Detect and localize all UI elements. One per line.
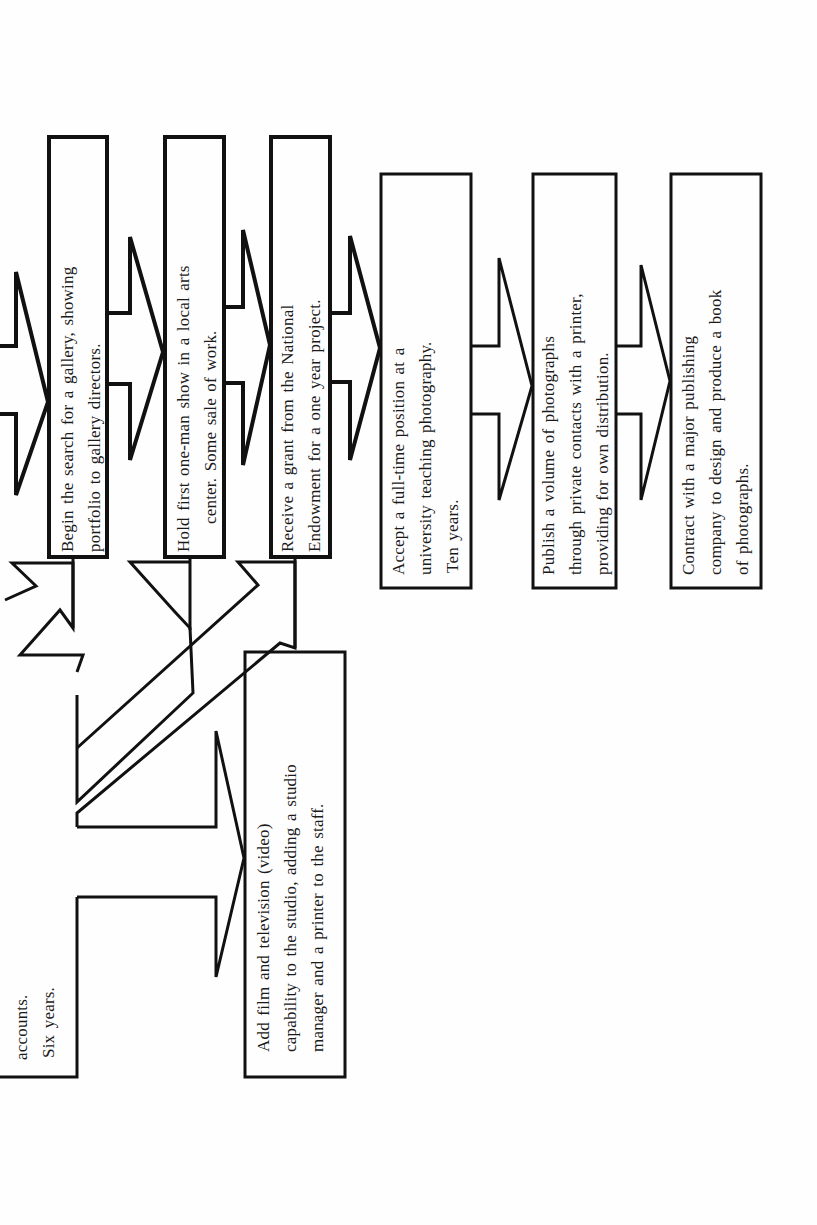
partial-box-line-2: Six years. xyxy=(35,987,62,1060)
box-gallery-search-text: Begin the search for a gallery, showing … xyxy=(54,267,108,552)
box-film-video-line-2: capability to the studio, adding a studi… xyxy=(277,764,304,1052)
box-one-man-show-text: Hold first one-man show in a local arts … xyxy=(170,265,224,552)
arrow-gallery-to-show xyxy=(107,237,163,460)
arrow-publish-to-contract xyxy=(616,265,670,500)
box-book-contract-line-1: Contract with a major publishing xyxy=(675,290,702,575)
box-film-video-line-1: Add film and television (video) xyxy=(250,764,277,1052)
arrow-teaching-to-publish xyxy=(471,258,532,500)
box-teaching-line-3: Ten years. xyxy=(439,341,466,575)
arrow-show-to-grant xyxy=(224,230,270,465)
box-book-contract-text: Contract with a major publishing company… xyxy=(675,290,756,575)
box-publish-volume-text: Publish a volume of photographs through … xyxy=(535,293,616,575)
box-publish-volume-line-3: providing for own distribution. xyxy=(589,293,616,575)
box-film-video-text: Add film and television (video) capabili… xyxy=(250,764,331,1052)
box-film-video-line-3: manager and a printer to the staff. xyxy=(304,764,331,1052)
arrow-into-gallery-search xyxy=(0,272,48,495)
box-teaching-text: Accept a full-time position at a univers… xyxy=(385,341,466,575)
arrow-into-film-video xyxy=(77,731,244,977)
box-teaching-line-2: university teaching photography. xyxy=(412,341,439,575)
box-publish-volume-line-2: through private contacts with a printer, xyxy=(562,293,589,575)
box-gallery-search-line-1: Begin the search for a gallery, showing xyxy=(54,267,81,552)
box-one-man-show-line-2: center. Some sale of work. xyxy=(197,265,224,552)
partial-box-text: accounts. Six years. xyxy=(8,987,62,1060)
box-publish-volume-line-1: Publish a volume of photographs xyxy=(535,293,562,575)
arrow-grant-to-teaching xyxy=(330,236,380,460)
box-grant-line-1: Receive a grant from the National xyxy=(274,299,301,552)
box-grant-text: Receive a grant from the National Endowm… xyxy=(274,299,328,552)
box-teaching-line-1: Accept a full-time position at a xyxy=(385,341,412,575)
diagonal-arrow-to-gallery-search xyxy=(5,563,83,672)
box-one-man-show-line-1: Hold first one-man show in a local arts xyxy=(170,265,197,552)
flowchart-shapes xyxy=(0,0,817,1225)
diagram-page: accounts. Six years. Begin the search fo… xyxy=(0,0,817,1225)
box-gallery-search-line-2: portfolio to gallery directors. xyxy=(81,267,108,552)
box-book-contract-line-2: company to design and produce a book xyxy=(702,290,729,575)
partial-box-line-1: accounts. xyxy=(8,987,35,1060)
box-book-contract-line-3: of photographs. xyxy=(729,290,756,575)
box-grant-line-2: Endowment for a one year project. xyxy=(301,299,328,552)
